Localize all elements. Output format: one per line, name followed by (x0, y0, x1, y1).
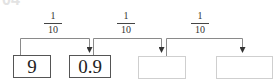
answer-box-3[interactable] (138, 56, 186, 79)
denominator: 10 (43, 25, 63, 35)
arrow-2-icon (94, 39, 162, 56)
answer-box-4[interactable] (216, 56, 273, 79)
operation-fraction-2: 1 10 (116, 11, 136, 35)
value-box-1: 9 (13, 55, 51, 78)
denominator: 10 (116, 25, 136, 35)
numerator: 1 (43, 11, 63, 21)
numerator: 1 (190, 11, 210, 21)
arrow-1-icon (21, 39, 90, 56)
value-box-2: 0.9 (69, 55, 111, 78)
denominator: 10 (190, 25, 210, 35)
operation-fraction-1: 1 10 (43, 11, 63, 35)
operation-fraction-3: 1 10 (190, 11, 210, 35)
numerator: 1 (116, 11, 136, 21)
arrow-3-icon (167, 39, 243, 57)
